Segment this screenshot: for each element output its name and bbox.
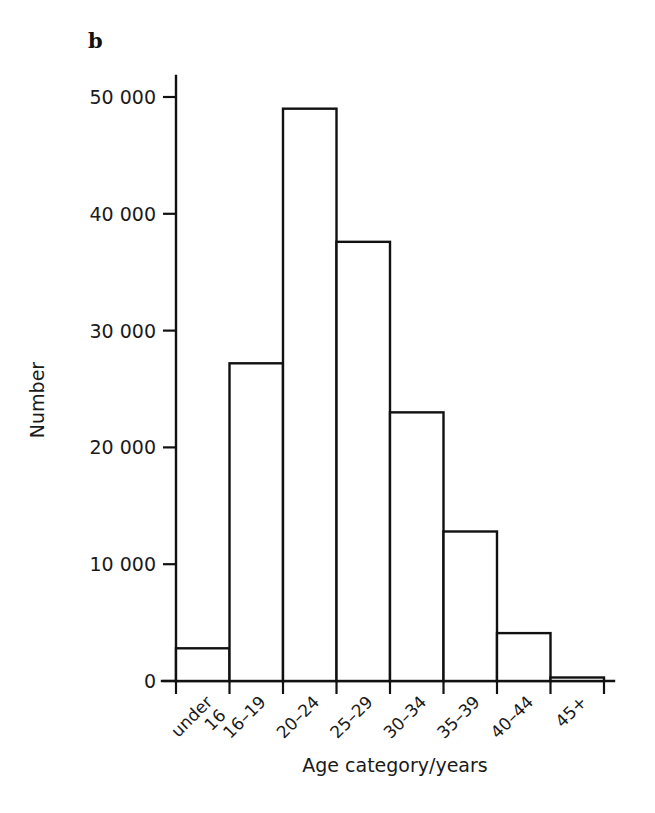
plot-area: 010 00020 00030 00040 00050 000under1616…	[26, 76, 614, 776]
x-tick-label: 20–24	[273, 692, 324, 743]
x-tick-label: 45+	[551, 692, 591, 732]
x-tick-label: 40–44	[487, 692, 538, 743]
bar-3	[283, 109, 337, 681]
y-axis-title: Number	[26, 362, 48, 439]
x-tick-label-group: 35–39	[433, 692, 484, 743]
x-tick-label-group: 25–29	[326, 692, 377, 743]
x-tick-label-group: 45+	[551, 692, 591, 732]
bar-6	[444, 531, 498, 681]
x-tick-label-group: under16	[167, 692, 230, 755]
y-tick-label: 50 000	[90, 86, 156, 108]
x-axis-title: Age category/years	[302, 754, 487, 776]
x-tick-label: 25–29	[326, 692, 377, 743]
histogram-figure: b 010 00020 00030 00040 00050 000under16…	[0, 0, 655, 813]
bar-5	[390, 412, 444, 681]
bar-7	[497, 633, 551, 681]
bar-8	[551, 677, 605, 681]
y-tick-label: 40 000	[90, 203, 156, 225]
x-tick-label-group: 20–24	[273, 692, 324, 743]
y-tick-label: 0	[144, 670, 156, 692]
panel-letter: b	[88, 28, 103, 53]
y-tick-label: 30 000	[90, 320, 156, 342]
x-tick-label-group: 40–44	[487, 692, 538, 743]
x-tick-label: 35–39	[433, 692, 484, 743]
x-tick-label-group: 30–34	[380, 692, 431, 743]
y-tick-label: 20 000	[90, 436, 156, 458]
y-tick-label: 10 000	[90, 553, 156, 575]
bar-2	[230, 363, 284, 681]
bar-1	[176, 648, 230, 681]
x-tick-label: 30–34	[380, 692, 431, 743]
bar-4	[337, 242, 391, 681]
